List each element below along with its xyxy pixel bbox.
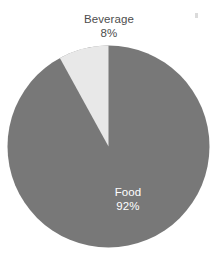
scan-speck-artifact	[195, 13, 198, 18]
beverage-slice-label: Beverage 8%	[34, 12, 184, 40]
food-label-name: Food	[78, 185, 178, 199]
food-label-value: 92%	[78, 199, 178, 213]
food-slice-label: Food 92%	[78, 185, 178, 213]
beverage-label-value: 8%	[34, 26, 184, 40]
beverage-label-name: Beverage	[34, 12, 184, 26]
pie-chart: Beverage 8% Food 92%	[0, 0, 218, 266]
